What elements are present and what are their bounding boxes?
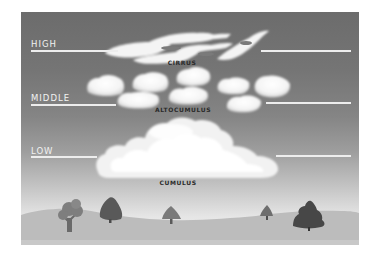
cloud-label-cirrus: CIRRUS <box>168 59 197 66</box>
altitude-line-middle-right <box>266 102 351 104</box>
level-label-middle: MIDDLE <box>31 93 70 103</box>
level-label-high: HIGH <box>31 39 57 49</box>
cumulus-cloud <box>96 117 278 178</box>
cloud-label-cumulus: CUMULUS <box>159 179 196 186</box>
cloud-label-altocumulus: ALTOCUMULUS <box>155 106 211 113</box>
level-label-low: LOW <box>31 146 54 156</box>
altitude-line-high-left <box>31 50 118 52</box>
altitude-line-low-right <box>276 155 351 157</box>
altitude-line-middle-left <box>31 104 116 106</box>
cloud-altitude-diagram: HIGH CIRRUS MIDDLE ALTOCUMULUS LOW CUMUL… <box>21 12 359 245</box>
altitude-line-low-left <box>31 156 97 158</box>
tree-conifer-right <box>293 201 325 231</box>
altitude-line-high-right <box>261 50 351 52</box>
scene-artwork <box>21 12 359 245</box>
